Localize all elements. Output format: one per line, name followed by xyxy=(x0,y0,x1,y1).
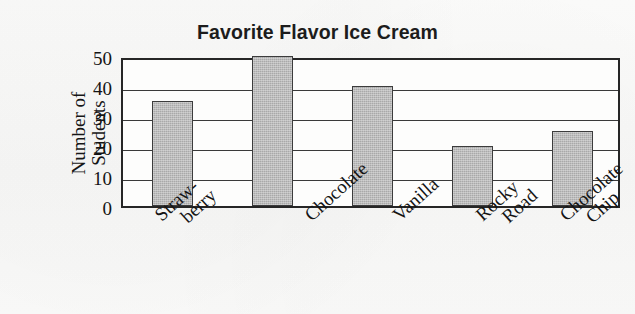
y-tick-label-40: 40 xyxy=(93,79,112,98)
x-axis-tick-labels: Straw-berryChocolateVanillaRockyRoadChoc… xyxy=(121,210,620,314)
y-axis-tick-labels: 01020304050 xyxy=(74,58,116,208)
chart-title: Favorite Flavor Ice Cream xyxy=(0,21,635,44)
y-tick-label-0: 0 xyxy=(103,199,113,218)
y-tick-label-30: 30 xyxy=(93,109,112,128)
y-tick-label-50: 50 xyxy=(93,49,112,68)
y-tick-label-10: 10 xyxy=(93,169,112,188)
y-tick-label-20: 20 xyxy=(93,139,112,158)
